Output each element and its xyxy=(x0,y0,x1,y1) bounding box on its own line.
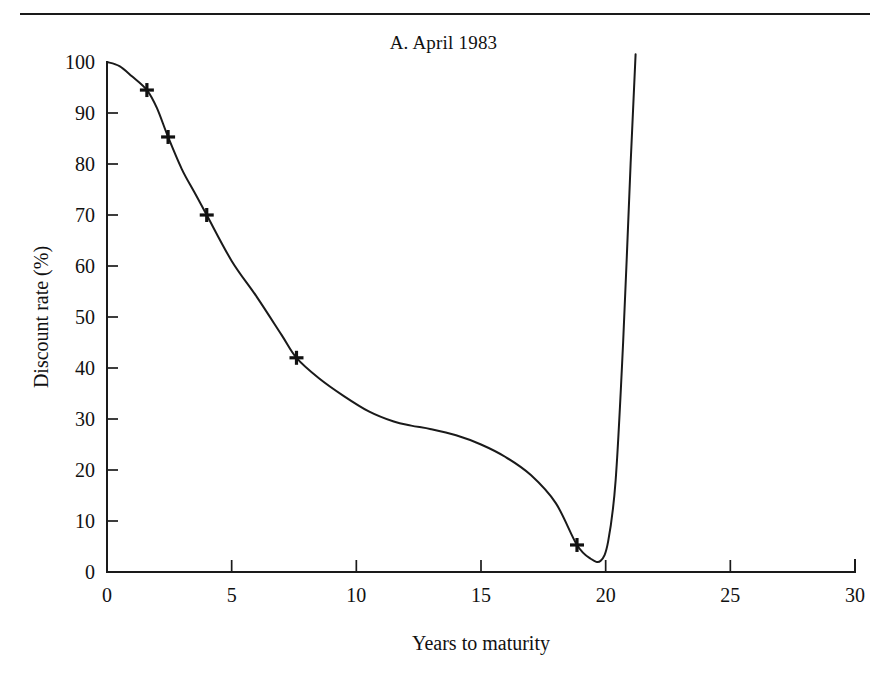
x-tick-label: 5 xyxy=(227,584,237,606)
y-axis-title: Discount rate (%) xyxy=(30,246,53,388)
x-tick-label: 15 xyxy=(471,584,491,606)
x-axis-tick-labels: 051015202530 xyxy=(102,584,865,606)
x-tick-label: 20 xyxy=(596,584,616,606)
figure-root: A. April 1983 0102030405060708090100 051… xyxy=(0,0,887,678)
axis-lines xyxy=(107,62,855,572)
chart-canvas: 0102030405060708090100 051015202530 Disc… xyxy=(0,0,887,678)
y-tick-label: 60 xyxy=(75,255,95,277)
y-tick-label: 50 xyxy=(75,306,95,328)
y-tick-label: 10 xyxy=(75,510,95,532)
y-tick-label: 0 xyxy=(85,561,95,583)
plus-marker xyxy=(161,130,175,144)
y-tick-label: 70 xyxy=(75,204,95,226)
x-tick-label: 0 xyxy=(102,584,112,606)
axes-group xyxy=(107,62,855,572)
y-tick-label: 80 xyxy=(75,153,95,175)
x-axis-title: Years to maturity xyxy=(412,632,550,655)
plus-marker xyxy=(200,208,214,222)
data-point-markers xyxy=(140,83,584,552)
y-tick-label: 30 xyxy=(75,408,95,430)
data-group xyxy=(107,54,636,562)
y-axis-tick-labels: 0102030405060708090100 xyxy=(65,51,95,583)
x-tick-label: 25 xyxy=(720,584,740,606)
y-tick-label: 100 xyxy=(65,51,95,73)
discount-curve xyxy=(107,54,636,562)
x-axis-ticks xyxy=(232,560,731,572)
y-axis-ticks xyxy=(107,113,118,521)
tick-labels-group: 0102030405060708090100 051015202530 xyxy=(65,51,865,606)
y-tick-label: 20 xyxy=(75,459,95,481)
x-tick-label: 10 xyxy=(346,584,366,606)
y-tick-label: 40 xyxy=(75,357,95,379)
x-tick-label: 30 xyxy=(845,584,865,606)
y-tick-label: 90 xyxy=(75,102,95,124)
plus-marker xyxy=(570,538,584,552)
